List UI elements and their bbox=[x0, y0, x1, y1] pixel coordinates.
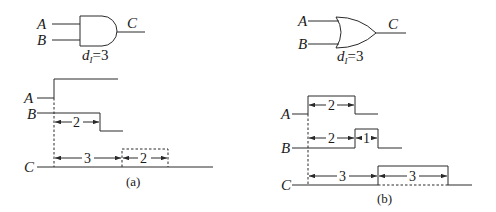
wave-b-c-delay: 3 bbox=[339, 169, 346, 184]
caption-b: (b) bbox=[377, 191, 392, 206]
gate-a-output-label: C bbox=[127, 15, 138, 31]
wave-a-label-C: C bbox=[24, 159, 35, 175]
and-gate-icon: A B C dI=3 bbox=[36, 15, 145, 65]
wave-b-label-A: A bbox=[280, 106, 291, 122]
wave-b-label-B: B bbox=[281, 140, 290, 156]
timing-diagram: A B C dI=3 A B C 2 3 2 bbox=[0, 0, 496, 212]
or-gate-icon: A B C dI=3 bbox=[297, 13, 406, 66]
wave-a-b-width: 2 bbox=[73, 115, 80, 130]
wave-b-label-C: C bbox=[281, 177, 292, 193]
gate-b-input-a-label: A bbox=[297, 13, 308, 29]
gate-b-input-b-label: B bbox=[298, 36, 307, 52]
wave-a-c-width: 2 bbox=[140, 151, 147, 166]
wave-b-c-width: 3 bbox=[409, 169, 416, 184]
wave-b-a-width: 2 bbox=[328, 98, 335, 113]
caption-a: (a) bbox=[126, 174, 140, 189]
wave-a-signal-A bbox=[37, 79, 118, 98]
wave-b-b-delay: 2 bbox=[328, 131, 335, 146]
gate-a-input-b-label: B bbox=[37, 32, 46, 48]
wave-a-signal-B bbox=[37, 113, 123, 131]
gate-a-input-a-label: A bbox=[36, 16, 47, 32]
gate-a-delay-d: dI=3 bbox=[82, 47, 108, 65]
wave-a-c-delay: 3 bbox=[84, 151, 91, 166]
wave-a-label-A: A bbox=[23, 90, 34, 106]
figure-b: A B C dI=3 A B C 2 2 1 bbox=[280, 13, 472, 206]
figure-a: A B C dI=3 A B C 2 3 2 bbox=[23, 15, 213, 189]
wave-b-b-width: 1 bbox=[363, 131, 370, 146]
wave-a-label-B: B bbox=[27, 106, 36, 122]
wave-b-signal-A bbox=[292, 96, 378, 114]
gate-b-delay-d: dI=3 bbox=[337, 48, 363, 66]
gate-b-output-label: C bbox=[388, 16, 399, 32]
